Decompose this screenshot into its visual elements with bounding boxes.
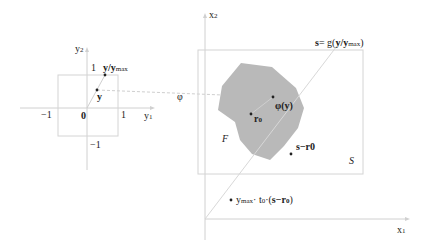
point-scaled bbox=[230, 199, 233, 202]
tick-pos1-x: 1 bbox=[121, 110, 126, 120]
point-r0 bbox=[250, 113, 253, 116]
ray-left bbox=[87, 75, 105, 108]
scaled-point-label: ymax· t0·(s−r0) bbox=[236, 195, 293, 206]
region-F-label: F bbox=[222, 134, 228, 144]
axis-y2-label: y2 bbox=[75, 44, 84, 55]
axis-x2-label: x2 bbox=[209, 10, 218, 21]
axis-x1-label: x1 bbox=[397, 225, 406, 236]
point-phi-y bbox=[272, 96, 275, 99]
s-definition-label: s= g(y/ymax) bbox=[315, 38, 364, 49]
tick-neg1-x: −1 bbox=[41, 110, 52, 120]
s-minus-r0-label: s−r0 bbox=[296, 142, 315, 152]
diagram-canvas: y2 y1 1 −1 −1 1 0 y y/ymax φ x2 x1 s= g(… bbox=[0, 0, 426, 249]
origin-label: 0 bbox=[81, 111, 86, 121]
phi-y-label: φ(y) bbox=[275, 101, 293, 111]
tick-pos1-y: 1 bbox=[91, 63, 96, 73]
mapping-phi-label: φ bbox=[177, 92, 183, 102]
point-s-minus-r0 bbox=[290, 153, 293, 156]
tick-neg1-y: −1 bbox=[90, 140, 101, 150]
region-S-label: S bbox=[349, 156, 354, 166]
axis-y1-label: y1 bbox=[144, 111, 153, 122]
point-y-norm bbox=[104, 74, 107, 77]
right-axes bbox=[203, 13, 410, 240]
r0-label: r0 bbox=[254, 114, 262, 125]
point-y-label: y bbox=[97, 92, 102, 102]
point-ynorm-label: y/ymax bbox=[103, 63, 128, 74]
